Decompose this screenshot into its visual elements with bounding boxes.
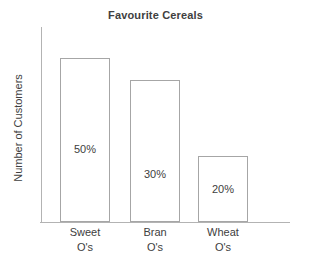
x-tick-label-wheat-os: Wheat O's <box>183 225 263 255</box>
x-axis-line <box>40 222 290 223</box>
y-axis-label: Number of Customers <box>12 74 24 182</box>
x-tick-label-wheat-os-line1: Wheat <box>183 225 263 240</box>
x-tick-label-sweet-os-line1: Sweet <box>45 225 125 240</box>
bar-wheat-os: 20% <box>198 156 248 222</box>
chart-title: Favourite Cereals <box>0 9 311 21</box>
y-axis-label-container: Number of Customers <box>8 48 28 208</box>
bar-slot-1: 30% <box>130 27 180 222</box>
bar-value-label-sweet-os: 50% <box>61 143 109 155</box>
bar-chart: Favourite Cereals Number of Customers 50… <box>0 0 311 262</box>
x-tick-label-sweet-os-line2: O's <box>45 240 125 255</box>
x-axis-tick-labels: Sweet O's Bran O's Wheat O's <box>41 225 290 262</box>
bar-slot-0: 50% <box>60 27 110 222</box>
bar-value-label-bran-os: 30% <box>131 168 179 180</box>
plot-area: 50% 30% 20% <box>41 27 290 222</box>
x-tick-label-wheat-os-line2: O's <box>183 240 263 255</box>
bar-value-label-wheat-os: 20% <box>199 183 247 195</box>
bar-sweet-os: 50% <box>60 58 110 222</box>
x-tick-label-sweet-os: Sweet O's <box>45 225 125 255</box>
bar-slot-2: 20% <box>198 27 248 222</box>
bar-bran-os: 30% <box>130 80 180 222</box>
